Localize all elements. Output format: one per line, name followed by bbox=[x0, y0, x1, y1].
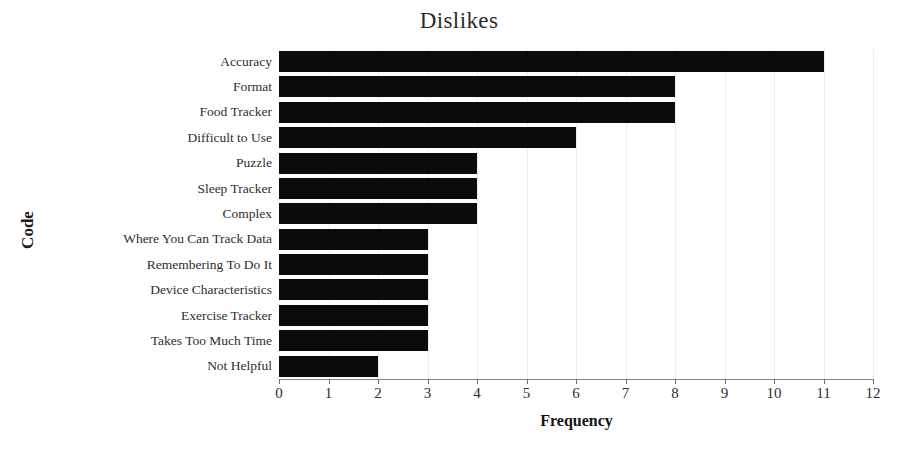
bar-row: Exercise Tracker bbox=[0, 303, 918, 328]
bar-row: Device Characteristics bbox=[0, 277, 918, 302]
x-tick-label: 8 bbox=[655, 385, 695, 402]
x-tick-label: 7 bbox=[606, 385, 646, 402]
x-tick-label: 6 bbox=[556, 385, 596, 402]
x-tick-mark bbox=[527, 379, 528, 384]
chart-title: Dislikes bbox=[0, 8, 918, 34]
category-label: Difficult to Use bbox=[0, 131, 272, 145]
bar bbox=[279, 51, 824, 72]
bar-row: Where You Can Track Data bbox=[0, 227, 918, 252]
bar bbox=[279, 153, 477, 174]
x-axis-title: Frequency bbox=[279, 412, 874, 430]
bar bbox=[279, 254, 428, 275]
bar-row: Format bbox=[0, 74, 918, 99]
x-tick-mark bbox=[576, 379, 577, 384]
bar-row: Puzzle bbox=[0, 151, 918, 176]
x-tick-label: 10 bbox=[754, 385, 794, 402]
category-label: Sleep Tracker bbox=[0, 182, 272, 196]
x-tick-mark bbox=[279, 379, 280, 384]
x-tick-mark bbox=[824, 379, 825, 384]
x-tick-mark bbox=[329, 379, 330, 384]
x-tick-mark bbox=[428, 379, 429, 384]
x-tick-mark bbox=[725, 379, 726, 384]
bar-row: Takes Too Much Time bbox=[0, 328, 918, 353]
bar bbox=[279, 178, 477, 199]
bar-row: Difficult to Use bbox=[0, 125, 918, 150]
bar bbox=[279, 356, 378, 377]
bar bbox=[279, 279, 428, 300]
category-label: Food Tracker bbox=[0, 105, 272, 119]
bar bbox=[279, 76, 675, 97]
category-label: Where You Can Track Data bbox=[0, 232, 272, 246]
bar-row: Food Tracker bbox=[0, 100, 918, 125]
category-label: Device Characteristics bbox=[0, 283, 272, 297]
x-tick-label: 4 bbox=[457, 385, 497, 402]
x-tick-label: 1 bbox=[309, 385, 349, 402]
x-tick-label: 2 bbox=[358, 385, 398, 402]
x-tick-mark bbox=[626, 379, 627, 384]
x-tick-mark bbox=[477, 379, 478, 384]
x-tick-label: 12 bbox=[853, 385, 893, 402]
x-tick-label: 0 bbox=[259, 385, 299, 402]
bar bbox=[279, 305, 428, 326]
x-tick-label: 5 bbox=[507, 385, 547, 402]
x-tick-mark bbox=[675, 379, 676, 384]
category-label: Complex bbox=[0, 207, 272, 221]
category-label: Accuracy bbox=[0, 55, 272, 69]
category-label: Remembering To Do It bbox=[0, 258, 272, 272]
x-tick-label: 3 bbox=[408, 385, 448, 402]
category-label: Not Helpful bbox=[0, 359, 272, 373]
x-tick-mark bbox=[873, 379, 874, 384]
bar-row: Complex bbox=[0, 201, 918, 226]
category-label: Exercise Tracker bbox=[0, 309, 272, 323]
bar bbox=[279, 330, 428, 351]
x-tick-label: 9 bbox=[705, 385, 745, 402]
x-tick-label: 11 bbox=[804, 385, 844, 402]
category-label: Puzzle bbox=[0, 156, 272, 170]
bar-row: Accuracy bbox=[0, 49, 918, 74]
x-tick-mark bbox=[774, 379, 775, 384]
bar-row: Sleep Tracker bbox=[0, 176, 918, 201]
x-tick-mark bbox=[378, 379, 379, 384]
bar-chart: Dislikes Code AccuracyFormatFood Tracker… bbox=[0, 0, 918, 454]
bar bbox=[279, 203, 477, 224]
bar bbox=[279, 127, 576, 148]
category-label: Takes Too Much Time bbox=[0, 334, 272, 348]
category-label: Format bbox=[0, 80, 272, 94]
bar bbox=[279, 229, 428, 250]
bar-row: Remembering To Do It bbox=[0, 252, 918, 277]
bar bbox=[279, 102, 675, 123]
bar-row: Not Helpful bbox=[0, 354, 918, 379]
